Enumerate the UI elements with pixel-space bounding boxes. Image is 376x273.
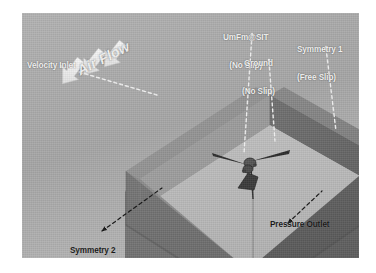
diagram-panel: Air Flow Velocity Inlet UmFm@SIT (No Sli… xyxy=(22,13,359,258)
label-ground: Ground (No Slip) xyxy=(242,41,275,115)
label-symmetry-1-line1: Symmetry 1 xyxy=(297,45,342,54)
label-symmetry-2: Symmetry 2 (Free Slip) xyxy=(70,228,115,258)
label-ground-line2: (No Slip) xyxy=(242,87,275,96)
label-ground-line1: Ground xyxy=(242,59,275,68)
label-symmetry-1-line2: (Free Slip) xyxy=(297,73,342,82)
label-symmetry-1: Symmetry 1 (Free Slip) xyxy=(297,27,342,101)
figure-canvas: Air Flow Velocity Inlet UmFm@SIT (No Sli… xyxy=(0,0,376,273)
label-pressure-outlet: Pressure Outlet xyxy=(270,220,329,229)
turbine-detail-b xyxy=(253,163,257,167)
turbine-detail-a xyxy=(242,169,246,173)
label-symmetry-2-line1: Symmetry 2 xyxy=(70,246,115,255)
label-velocity-inlet: Velocity Inlet xyxy=(27,61,76,70)
